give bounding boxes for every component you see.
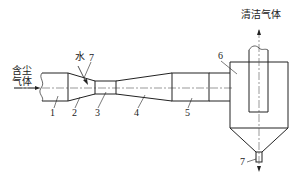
pipe-break-icon	[249, 46, 268, 50]
water-label: 水	[75, 52, 85, 62]
part-label-3: 3	[95, 108, 100, 118]
outlet-arrowhead-icon	[257, 29, 261, 35]
inlet-pipe-1	[42, 73, 68, 101]
part-label-7-water: 7	[89, 53, 94, 63]
discharge-arrowhead-icon	[257, 166, 261, 172]
part-label-6: 6	[218, 51, 223, 61]
inlet-label-line1: 含尘	[12, 66, 32, 76]
venturi-scrubber-diagram	[0, 0, 300, 185]
inlet-arrowhead-icon	[35, 86, 40, 90]
part-label-1: 1	[50, 108, 55, 118]
part-label-4: 4	[134, 108, 139, 118]
throat-3	[95, 81, 116, 94]
section-5	[172, 73, 209, 101]
part-label-5: 5	[185, 108, 190, 118]
part-label-7-outlet: 7	[240, 157, 245, 167]
clean-gas-pipe	[249, 50, 268, 112]
water-arrowhead-icon	[83, 79, 88, 85]
part-label-2: 2	[72, 108, 77, 118]
connecting-pipe	[209, 73, 230, 101]
break-line-icon	[40, 73, 43, 101]
outlet-label: 清洁气体	[241, 10, 281, 20]
inlet-label-line2: 气体	[12, 77, 32, 87]
converging-section-2	[68, 73, 95, 101]
